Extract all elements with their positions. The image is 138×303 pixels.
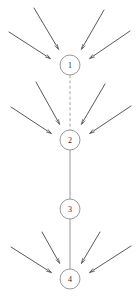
arrow-shaft: [83, 84, 105, 121]
arrow-shaft: [93, 246, 131, 270]
incoming-arrow-to-node4: [81, 232, 100, 264]
incoming-arrow-to-node4: [42, 232, 60, 264]
arrow-shaft: [93, 31, 130, 56]
arrowhead-icon: [81, 44, 85, 50]
node-1[interactable]: 1: [60, 55, 80, 75]
arrow-shaft: [42, 232, 58, 260]
arrow-shaft: [83, 232, 100, 260]
incoming-arrow-to-node1: [81, 10, 104, 50]
incoming-arrow-to-node1: [34, 8, 59, 50]
arrow-shaft: [36, 82, 58, 121]
arrow-shaft: [9, 32, 47, 56]
arrow-shaft: [11, 247, 48, 270]
incoming-arrow-to-node2: [11, 107, 52, 134]
arrowhead-icon: [81, 119, 85, 125]
node-graph-svg: 1234: [0, 0, 138, 303]
arrowhead-icon: [89, 268, 95, 273]
node-4[interactable]: 4: [60, 269, 80, 289]
arrowhead-icon: [46, 129, 52, 134]
arrowhead-icon: [56, 258, 60, 264]
node-1-label: 1: [68, 61, 72, 70]
incoming-arrow-to-node4: [11, 247, 52, 273]
diagram-canvas: 1234: [0, 0, 138, 303]
incoming-arrow-to-node2: [36, 82, 60, 125]
incoming-arrow-to-node2: [81, 84, 105, 125]
arrowhead-icon: [54, 44, 59, 50]
arrowhead-icon: [89, 129, 95, 134]
arrow-shaft: [93, 106, 131, 131]
node-3-label: 3: [68, 205, 72, 214]
arrow-shaft: [34, 8, 57, 46]
arrow-shaft: [11, 107, 48, 131]
incoming-arrow-to-node4: [89, 246, 131, 273]
arrowhead-icon: [46, 268, 52, 273]
node-3[interactable]: 3: [60, 199, 80, 219]
incoming-arrow-to-node1: [9, 32, 51, 59]
incoming-arrow-to-node1: [89, 31, 130, 59]
arrowhead-icon: [45, 54, 51, 59]
arrow-shaft: [83, 10, 104, 46]
node-4-label: 4: [68, 275, 72, 284]
arrowhead-icon: [81, 258, 86, 264]
arrowhead-icon: [89, 54, 95, 59]
arrowhead-icon: [56, 119, 60, 125]
node-2[interactable]: 2: [60, 130, 80, 150]
incoming-arrow-to-node2: [89, 106, 131, 134]
node-2-label: 2: [68, 136, 72, 145]
